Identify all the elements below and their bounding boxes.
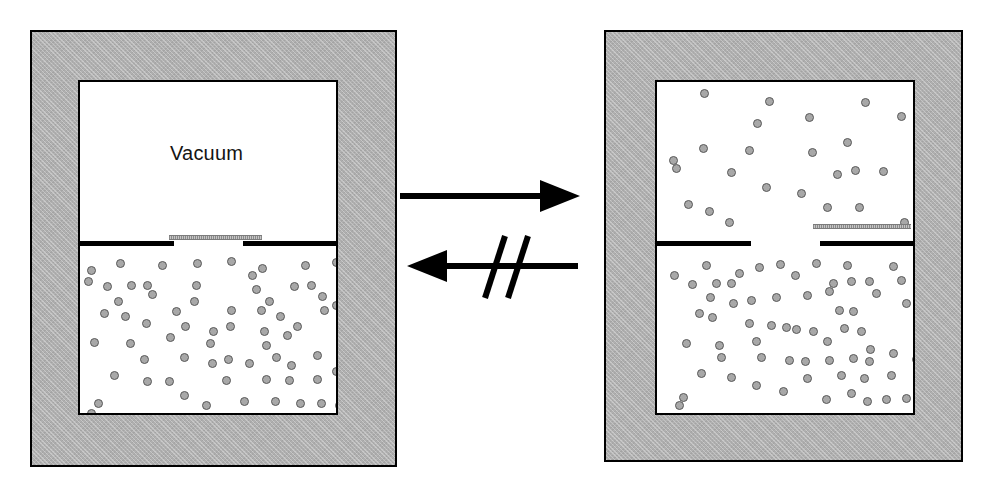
initial-shutter-plate-closed[interactable] [169, 235, 262, 240]
gas-particle [684, 200, 693, 209]
gas-particle [262, 341, 271, 350]
gas-particle [837, 371, 846, 380]
gas-particle [897, 276, 906, 285]
gas-particle [772, 293, 781, 302]
gas-particle [276, 312, 285, 321]
gas-particle [222, 376, 231, 385]
reverse-process-arrow [407, 236, 578, 298]
gas-particle [752, 337, 761, 346]
gas-particle [782, 323, 791, 332]
gas-particle [745, 146, 754, 155]
gas-particle [285, 376, 294, 385]
gas-particle [855, 203, 864, 212]
gas-particle [812, 259, 821, 268]
gas-particle [825, 287, 834, 296]
gas-particle [872, 289, 881, 298]
gas-particle [823, 203, 832, 212]
reverse-arrow-head [407, 250, 447, 282]
gas-particle [717, 353, 726, 362]
gas-particle [697, 369, 706, 378]
final-partition-right-segment [820, 241, 915, 246]
gas-particle [706, 293, 715, 302]
gas-particle [808, 148, 817, 157]
gas-particle [293, 322, 302, 331]
gas-particle [262, 375, 271, 384]
gas-particle [192, 281, 201, 290]
gas-particle [240, 397, 249, 406]
gas-particle [317, 399, 326, 408]
gas-particle [803, 374, 812, 383]
gas-particle [193, 259, 202, 268]
gas-particle [849, 307, 858, 316]
gas-particle [700, 89, 709, 98]
gas-particle [140, 355, 149, 364]
gas-particle [902, 394, 911, 403]
gas-particle [835, 306, 844, 315]
gas-particle [803, 291, 812, 300]
gas-particle [332, 301, 338, 310]
gas-particle [809, 327, 818, 336]
gas-particle [271, 397, 280, 406]
gas-particle [206, 339, 215, 348]
gas-particle [753, 119, 762, 128]
gas-particle [695, 309, 704, 318]
gas-particle [258, 264, 267, 273]
gas-particle [889, 262, 898, 271]
gas-particle [114, 297, 123, 306]
gas-particle [227, 306, 236, 315]
gas-particle [767, 321, 776, 330]
gas-particle [127, 281, 136, 290]
gas-particle [823, 337, 832, 346]
gas-particle [165, 377, 174, 386]
gas-particle [296, 399, 305, 408]
gas-particle [727, 168, 736, 177]
free-expansion-diagram: Vacuum [0, 0, 992, 497]
gas-particle [181, 322, 190, 331]
gas-particle [675, 401, 684, 410]
gas-particle [265, 297, 274, 306]
process-arrows-svg [395, 170, 595, 310]
gas-particle [912, 355, 915, 364]
gas-particle [705, 207, 714, 216]
gas-particle [290, 282, 299, 291]
gas-particle [762, 183, 771, 192]
gas-particle [100, 309, 109, 318]
gas-particle [847, 277, 856, 286]
gas-particle [776, 260, 785, 269]
gas-particle [226, 322, 235, 331]
gas-particle [887, 371, 896, 380]
gas-particle [202, 401, 211, 410]
gas-particle [797, 189, 806, 198]
gas-particle [843, 261, 852, 270]
gas-particle [857, 327, 866, 336]
gas-particle [84, 277, 93, 286]
gas-particle [248, 271, 257, 280]
gas-particle [825, 356, 834, 365]
gas-particle [126, 339, 135, 348]
gas-particle [670, 271, 679, 280]
gas-particle [142, 319, 151, 328]
gas-particle [252, 285, 261, 294]
gas-particle [779, 387, 788, 396]
gas-particle [335, 401, 338, 410]
gas-particle [902, 299, 911, 308]
gas-particle [757, 353, 766, 362]
gas-particle [94, 399, 103, 408]
gas-particle [87, 266, 96, 275]
gas-particle [148, 290, 157, 299]
forward-process-arrow [400, 180, 580, 212]
gas-particle [158, 261, 167, 270]
gas-particle [863, 397, 872, 406]
gas-particle [861, 98, 870, 107]
gas-particle [699, 144, 708, 153]
gas-particle [209, 327, 218, 336]
gas-particle [727, 373, 736, 382]
process-arrows [395, 170, 595, 310]
gas-particle [729, 299, 738, 308]
gas-particle [851, 166, 860, 175]
gas-particle [765, 97, 774, 106]
final-shutter-plate-open[interactable] [813, 224, 911, 229]
gas-particle [843, 138, 852, 147]
initial-partition-left-segment [78, 241, 174, 246]
gas-particle [682, 339, 691, 348]
